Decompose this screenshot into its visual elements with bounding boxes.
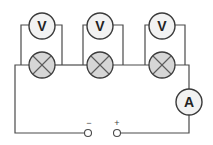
negative-sign: − bbox=[86, 118, 91, 128]
voltmeter-label: V bbox=[157, 18, 167, 34]
circuit-diagram: V V V A − + bbox=[0, 0, 213, 145]
lamp-1 bbox=[29, 52, 55, 78]
negative-terminal: − bbox=[85, 118, 92, 137]
voltmeter-label: V bbox=[37, 18, 47, 34]
voltmeter-2: V bbox=[87, 13, 113, 39]
positive-terminal: + bbox=[114, 118, 121, 137]
voltmeter-3: V bbox=[149, 13, 175, 39]
positive-sign: + bbox=[114, 118, 119, 128]
voltmeter-label: V bbox=[95, 18, 105, 34]
circuit-wires bbox=[15, 25, 189, 133]
lamp-3 bbox=[149, 52, 175, 78]
ammeter-label: A bbox=[184, 94, 194, 110]
ammeter: A bbox=[176, 89, 202, 115]
lamp-2 bbox=[87, 52, 113, 78]
voltmeter-1: V bbox=[29, 13, 55, 39]
